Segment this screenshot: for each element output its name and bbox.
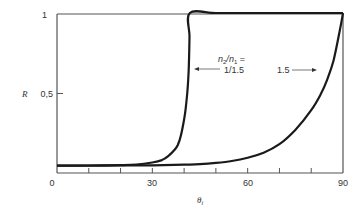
arrow-right-icon [292,68,317,72]
annotation-ratio-line1: n2/n1 = [218,54,245,65]
x-ticks [89,168,311,173]
y-tick-label-1: 1 [42,10,47,20]
y-axis-label: R [21,89,28,99]
x-tick-label-30: 30 [147,178,157,188]
plot-frame [57,14,343,173]
curve-internal-1-over-1.5 [57,11,343,165]
y-tick-label-0.5: 0,5 [40,89,53,99]
x-axis-label-sub: i [201,200,203,206]
annotation-ratio-line2: 1/1.5 [224,65,244,75]
x-tick-label-0: 0 [49,178,54,188]
curve-external-1.5 [57,13,343,166]
x-tick-label-90: 90 [338,178,348,188]
x-tick-label-60: 60 [243,178,253,188]
x-axis-label: θi [197,195,203,206]
reflectance-chart: 1 0,5 R 0 30 60 90 θi n2/n1 = 1/1.5 1.5 [0,0,360,217]
arrow-left-icon [194,67,220,71]
annotation-1.5: 1.5 [277,65,290,75]
